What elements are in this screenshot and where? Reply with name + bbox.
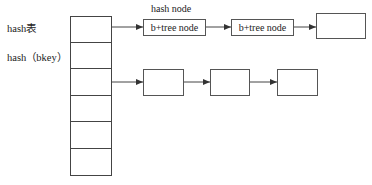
chain2-node-3 [277, 69, 318, 96]
chain1-node-1: b+tree node [143, 19, 206, 36]
chain2-node-2 [210, 69, 250, 96]
chain1-node-2: b+tree node [231, 19, 294, 36]
chain1-node-3 [316, 13, 366, 39]
chain2-node-1 [143, 69, 184, 96]
